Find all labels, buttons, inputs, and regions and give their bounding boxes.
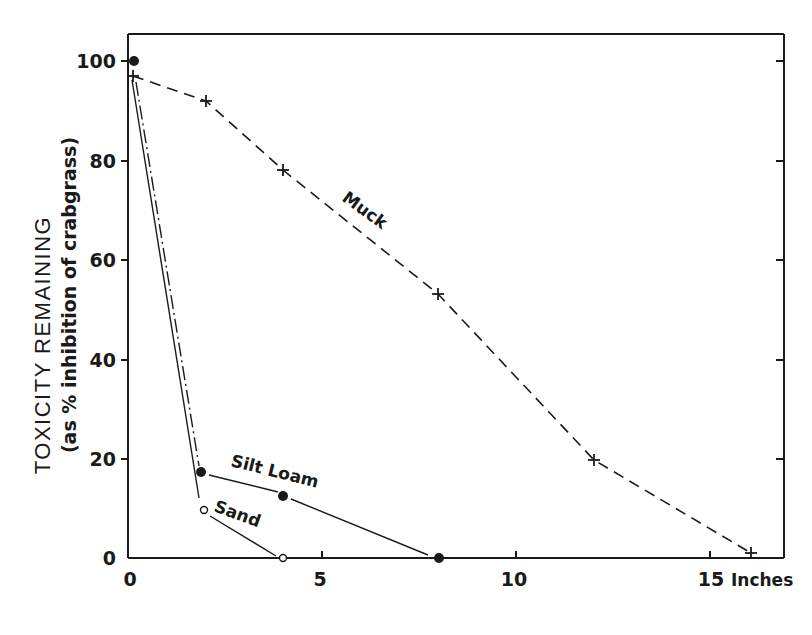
chart-svg: 100 80 60 40 20 0 0 5 10 15 Inches TOXIC… [0,0,812,635]
silt-loam-marker [196,467,206,477]
chart: 100 80 60 40 20 0 0 5 10 15 Inches TOXIC… [0,0,812,635]
sand-marker [201,507,208,514]
y-tick-label: 100 [76,50,116,72]
y-tick-label: 20 [90,448,116,470]
silt-loam-line-2 [291,499,428,555]
sand-marker [280,555,287,562]
y-axis-subtitle: (as % inhibition of crabgrass) [58,137,80,453]
silt-loam-marker [129,56,139,66]
silt-loam-marker [278,491,288,501]
silt-loam-label: Silt Loam [229,450,321,491]
x-tick-label: 0 [123,568,136,590]
y-tick-label: 0 [103,547,116,569]
series-muck: Muck [127,70,757,559]
y-tick-label: 40 [90,349,116,371]
x-unit-label: Inches [731,570,793,590]
y-tick-label: 60 [90,249,116,271]
muck-label: Muck [339,187,392,233]
silt-loam-dashdot-line [136,82,199,466]
sand-label: Sand [212,496,264,531]
series-silt-loam: Silt Loam [129,56,444,563]
x-tick-label: 15 [698,568,724,590]
right-ticks [776,61,784,459]
y-ticks [121,61,128,459]
x-tick-label: 5 [313,568,326,590]
y-tick-label: 80 [90,150,116,172]
x-ticks [322,551,710,558]
silt-loam-marker [434,553,444,563]
x-tick-label: 10 [501,568,527,590]
y-axis-title: TOXICITY REMAINING [30,216,55,474]
muck-line [133,76,751,553]
sand-line-1 [132,80,199,498]
y-tick-labels: 100 80 60 40 20 0 [76,50,116,569]
muck-markers [127,70,757,559]
x-tick-labels: 0 5 10 15 Inches [123,568,793,590]
